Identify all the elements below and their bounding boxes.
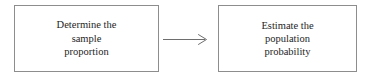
flowchart-node-estimate-population-probability: Estimate the population probability <box>218 5 357 72</box>
node-text-line: Estimate the <box>261 19 313 32</box>
node-text-line: Determine the <box>57 18 117 32</box>
node-text-line: probability <box>264 45 310 58</box>
flowchart-node-determine-sample-proportion: Determine the sample proportion <box>14 5 159 72</box>
arrow-right-icon <box>160 30 210 50</box>
node-text-line: sample <box>72 32 102 46</box>
node-text-line: population <box>265 32 310 45</box>
node-text-line: proportion <box>64 45 108 59</box>
flowchart-diagram: Determine the sample proportion Estimate… <box>0 0 370 80</box>
